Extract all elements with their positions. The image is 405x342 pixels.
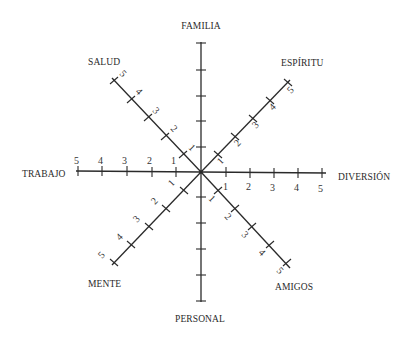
svg-text:1: 1 xyxy=(207,193,218,204)
svg-text:5: 5 xyxy=(96,249,107,260)
svg-text:1: 1 xyxy=(166,177,177,188)
svg-text:5: 5 xyxy=(74,155,79,166)
svg-text:4: 4 xyxy=(294,182,299,193)
svg-text:3: 3 xyxy=(240,229,251,240)
svg-text:5: 5 xyxy=(275,265,286,276)
label-trabajo: TRABAJO xyxy=(22,169,65,179)
label-espiritu: ESPÍRITU xyxy=(281,57,324,68)
axis-espiritu: 1 2 3 4 5 xyxy=(201,79,296,172)
svg-text:1: 1 xyxy=(223,181,228,192)
diversion-tick-labels: 1 2 3 4 5 xyxy=(223,181,323,194)
svg-text:2: 2 xyxy=(246,181,251,192)
label-salud: SALUD xyxy=(88,57,120,67)
svg-text:2: 2 xyxy=(149,195,160,206)
label-familia: FAMILIA xyxy=(181,21,221,31)
svg-text:5: 5 xyxy=(285,84,296,95)
svg-text:4: 4 xyxy=(98,155,103,166)
svg-text:4: 4 xyxy=(134,86,145,97)
trabajo-tick-labels: 5 4 3 2 1 xyxy=(74,155,176,166)
svg-text:3: 3 xyxy=(270,182,275,193)
svg-text:4: 4 xyxy=(257,247,268,258)
axis-mente: 1 2 3 4 5 xyxy=(96,172,201,266)
svg-text:2: 2 xyxy=(147,155,152,166)
svg-text:3: 3 xyxy=(122,155,127,166)
svg-text:5: 5 xyxy=(118,68,129,79)
svg-text:2: 2 xyxy=(223,211,234,222)
svg-text:2: 2 xyxy=(169,123,180,134)
label-amigos: AMIGOS xyxy=(275,282,313,292)
label-personal: PERSONAL xyxy=(175,314,225,324)
svg-text:4: 4 xyxy=(114,231,125,242)
svg-text:1: 1 xyxy=(171,155,176,166)
center-point xyxy=(199,170,203,174)
svg-text:5: 5 xyxy=(318,183,323,194)
svg-text:3: 3 xyxy=(151,105,162,116)
svg-text:3: 3 xyxy=(131,213,142,224)
life-balance-wheel: 1 2 3 4 5 1 2 3 4 5 1 2 3 4 xyxy=(0,0,405,342)
label-mente: MENTE xyxy=(88,279,121,289)
label-diversion: DIVERSIÓN xyxy=(338,171,390,182)
